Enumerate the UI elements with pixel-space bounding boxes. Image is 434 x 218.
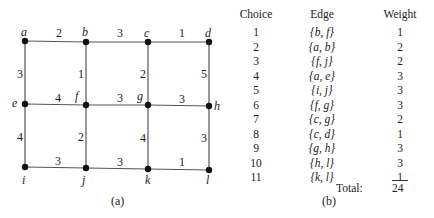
edge-weight-label: 3 <box>17 67 23 81</box>
vertex-i <box>22 164 28 170</box>
weight-cell: 3 <box>375 157 425 169</box>
choice-cell: 8 <box>232 128 280 140</box>
edge-weight-label: 2 <box>140 67 146 81</box>
table-row: 5{i, j}3 <box>232 84 432 98</box>
edge-weight-label: 1 <box>179 26 185 40</box>
edge-weight-label: 3 <box>55 154 61 168</box>
choice-cell: 3 <box>232 55 280 67</box>
table-row: 3{f, j}2 <box>232 55 432 69</box>
table-caption: (b) <box>322 194 336 209</box>
total-value: 24 <box>392 182 404 194</box>
choice-cell: 10 <box>232 157 280 169</box>
weight-cell: 2 <box>375 55 425 67</box>
edge-cell: {h, l} <box>292 157 352 169</box>
edge-cell: {a, e} <box>292 70 352 82</box>
edge-weight-label: 2 <box>78 130 84 144</box>
choice-cell: 1 <box>232 26 280 38</box>
vertex-label: c <box>144 26 150 40</box>
edge-weight-label: 4 <box>17 130 23 144</box>
header-edge: Edge <box>292 8 352 20</box>
edge-cell: {f, g} <box>292 99 352 111</box>
header-choice: Choice <box>232 8 280 20</box>
weight-cell: 1 <box>375 128 425 140</box>
vertex-label: f <box>75 89 80 103</box>
edge-weight-label: 3 <box>117 91 123 105</box>
edge-cell: {c, d} <box>292 128 352 140</box>
weight-cell: 3 <box>375 142 425 154</box>
vertex-label: g <box>137 89 143 103</box>
table-row: 8{c, d}1 <box>232 128 432 142</box>
table-row: 7{c, g}2 <box>232 113 432 127</box>
edge-weight-label: 4 <box>140 131 146 145</box>
edge-weight-label: 5 <box>201 67 207 81</box>
vertex-label: l <box>206 173 210 187</box>
vertex-j <box>83 165 89 171</box>
choice-cell: 4 <box>232 70 280 82</box>
edge-weight-label: 3 <box>179 92 185 106</box>
header-weight: Weight <box>375 8 425 20</box>
table-row: 10{h, l}3 <box>232 157 432 171</box>
weight-cell: 3 <box>375 70 425 82</box>
vertex-label: d <box>205 26 212 40</box>
table-row: 9{g, h}3 <box>232 142 432 156</box>
table-header: Choice Edge Weight <box>232 8 432 22</box>
edge-cell: {a, b} <box>292 41 352 53</box>
edge-weight-label: 1 <box>78 67 84 81</box>
edge-cell: {f, j} <box>292 55 352 67</box>
choice-cell: 9 <box>232 142 280 154</box>
vertex-label: i <box>22 173 25 187</box>
vertex-h <box>206 103 212 109</box>
table-row: 1{b, f}1 <box>232 26 432 40</box>
table-row: 6{f, g}3 <box>232 99 432 113</box>
edge-a-b <box>25 41 86 42</box>
edge-cell: {g, h} <box>292 142 352 154</box>
weighted-graph: 23131254334243331 abcdefghijkl <box>0 0 240 218</box>
weight-cell: 3 <box>375 99 425 111</box>
choice-cell: 7 <box>232 113 280 125</box>
edge-cell: {c, g} <box>292 113 352 125</box>
edge-cell: {i, j} <box>292 84 352 96</box>
vertex-label: k <box>145 173 151 187</box>
edge-weight-label: 4 <box>55 91 61 105</box>
edge-weight-label: 2 <box>56 26 62 40</box>
vertex-e <box>22 101 28 107</box>
edge-weight-label: 1 <box>179 155 185 169</box>
choice-cell: 6 <box>232 99 280 111</box>
vertex-b <box>83 39 89 45</box>
graph-caption: (a) <box>111 194 124 209</box>
vertex-label: j <box>80 173 86 187</box>
total-rule <box>392 180 408 181</box>
table-row: 4{a, e}3 <box>232 70 432 84</box>
edge-k-l <box>148 169 209 170</box>
vertex-label: a <box>21 25 27 39</box>
edge-cell: {b, f} <box>292 26 352 38</box>
weight-cell: 3 <box>375 84 425 96</box>
choice-cell: 2 <box>232 41 280 53</box>
weight-cell: 2 <box>375 41 425 53</box>
vertex-f <box>83 102 89 108</box>
vertex-g <box>145 102 151 108</box>
edge-weight-label: 3 <box>117 155 123 169</box>
edge-weight-label: 3 <box>117 26 123 40</box>
weight-cell: 1 <box>375 26 425 38</box>
table-row: 2{a, b}2 <box>232 41 432 55</box>
vertex-label: b <box>82 25 88 39</box>
vertex-label: h <box>214 99 220 113</box>
weight-cell: 2 <box>375 113 425 125</box>
total-label: Total: <box>336 182 363 194</box>
vertex-label: e <box>12 96 18 110</box>
choice-cell: 5 <box>232 84 280 96</box>
edge-weight-label: 3 <box>201 131 207 145</box>
vertex-k <box>145 166 151 172</box>
